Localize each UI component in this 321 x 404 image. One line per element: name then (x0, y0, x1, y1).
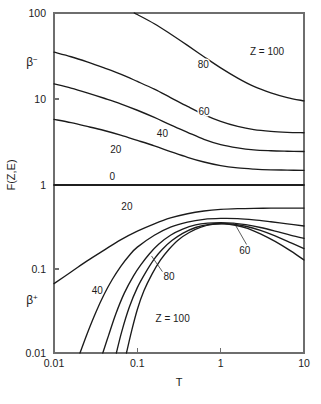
x-tick-label-10: 10 (298, 357, 310, 369)
curve-label-40: 40 (157, 128, 169, 139)
curve-label-z-100: Z = 100 (156, 313, 191, 324)
y-tick-label-100: 100 (28, 7, 46, 19)
x-tick-label-0.1: 0.1 (130, 357, 145, 369)
curve-label-0: 0 (109, 171, 115, 182)
curve-label-60: 60 (239, 245, 251, 256)
y-tick-label-0.1: 0.1 (31, 263, 46, 275)
lower-panel-frame (54, 185, 304, 353)
curve-label-60: 60 (198, 106, 210, 117)
curve-beta-plus-60 (103, 223, 304, 353)
y-tick-label-1: 1 (40, 179, 46, 191)
y-tick-label-10: 10 (34, 93, 46, 105)
curve-label-40: 40 (92, 285, 104, 296)
curve-label-20: 20 (121, 201, 133, 212)
leader-line-80 (152, 256, 163, 272)
curve-label-80: 80 (163, 271, 175, 282)
labels-group: TF(Z,E)Z = 100Z = 100808060604040202000β… (5, 46, 285, 388)
panel-label-superscript: + (33, 293, 38, 302)
y-axis-title: F(Z,E) (5, 159, 17, 190)
panel-beta-minus (54, 13, 304, 185)
upper-panel-frame (54, 13, 304, 185)
figure-container: 1001010.10.010.010.1110 TF(Z,E)Z = 100Z … (0, 0, 321, 404)
curve-label-80: 80 (198, 59, 210, 70)
curve-beta-plus-20 (54, 208, 304, 284)
x-axis-title: T (176, 376, 183, 388)
curve-label-20: 20 (110, 144, 122, 155)
curve-beta-minus-60 (54, 84, 304, 152)
panel-label-superscript: − (33, 55, 38, 64)
curve-beta-plus-z-100 (126, 224, 304, 353)
curve-beta-minus-z-100 (134, 13, 304, 101)
curve-beta-minus-80 (54, 52, 304, 133)
curve-beta-minus-40 (54, 119, 304, 170)
curves-group (54, 13, 304, 353)
panel-label-beta-plus: β+ (26, 293, 38, 307)
curve-label-z-100: Z = 100 (250, 46, 285, 57)
panel-label-beta-minus: β− (26, 55, 38, 69)
x-tick-label-0.01: 0.01 (44, 357, 65, 369)
panel-beta-plus (54, 208, 304, 353)
chart-svg: 1001010.10.010.010.1110 TF(Z,E)Z = 100Z … (0, 0, 321, 404)
x-tick-label-1: 1 (218, 357, 224, 369)
